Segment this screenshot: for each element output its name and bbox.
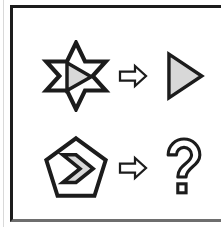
rightwards-white-arrow-icon bbox=[118, 63, 148, 89]
source-shape-cell-row1[interactable] bbox=[39, 34, 113, 118]
six-pointed-star-with-inner-triangle-icon bbox=[41, 40, 111, 112]
pentagon-with-inner-chevron-icon bbox=[43, 135, 109, 201]
transform-arrow-cell-row2 bbox=[113, 126, 153, 210]
question-mark-outline-icon bbox=[161, 137, 207, 199]
puzzle-screenshot bbox=[0, 0, 221, 227]
right-pointing-triangle-icon bbox=[162, 50, 206, 102]
puzzle-row-question bbox=[27, 122, 221, 214]
rightwards-white-arrow-icon bbox=[118, 155, 148, 181]
puzzle-panel-frame bbox=[10, 5, 221, 222]
result-shape-cell-row2[interactable] bbox=[153, 126, 215, 210]
puzzle-grid bbox=[27, 17, 221, 226]
transform-arrow-cell-row1 bbox=[113, 34, 153, 118]
puzzle-row-example bbox=[27, 30, 221, 122]
left-edge-sliver bbox=[0, 0, 4, 227]
result-shape-cell-row1[interactable] bbox=[153, 34, 215, 118]
source-shape-cell-row2[interactable] bbox=[39, 126, 113, 210]
